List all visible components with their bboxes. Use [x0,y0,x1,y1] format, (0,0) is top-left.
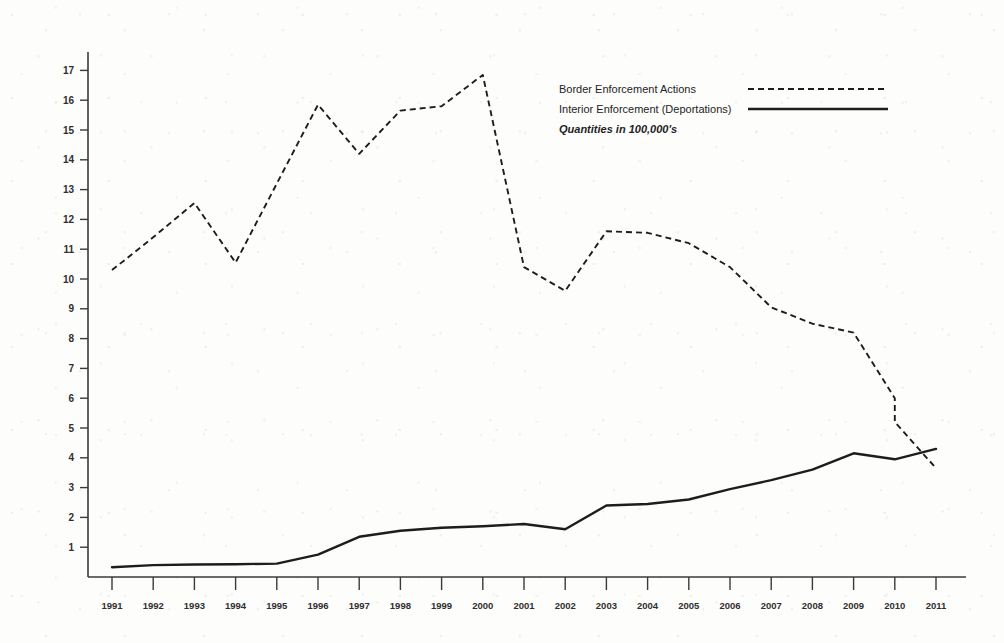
x-tick-label: 1998 [390,600,411,611]
y-tick-label: 2 [68,512,74,523]
legend-units-note: Quantities in 100,000's [559,123,677,135]
x-tick-label: 2000 [472,600,493,611]
y-tick-label: 9 [68,303,74,314]
y-axis-ticks: 1234567891011121314151617 [63,65,88,553]
x-tick-label: 2002 [555,600,576,611]
legend-label-border-enforcement-actions: Border Enforcement Actions [559,83,696,95]
line-chart: 1234567891011121314151617 19911992199319… [0,0,1004,643]
x-tick-label: 1996 [307,600,328,611]
y-tick-label: 10 [63,274,75,285]
chart-series [112,75,936,567]
y-tick-label: 17 [63,65,75,76]
chart-legend: Border Enforcement Actions Interior Enfo… [559,83,888,135]
x-tick-label: 2001 [513,600,535,611]
x-tick-label: 2010 [884,600,905,611]
y-tick-label: 15 [63,125,75,136]
x-tick-label: 2009 [843,600,864,611]
x-tick-label: 1995 [266,600,288,611]
y-tick-label: 7 [68,363,74,374]
x-tick-label: 2007 [761,600,782,611]
x-tick-label: 1991 [101,600,123,611]
chart-canvas: 1234567891011121314151617 19911992199319… [0,0,1004,643]
series-border-enforcement-actions [112,75,936,468]
y-tick-label: 6 [68,393,74,404]
x-tick-label: 1992 [143,600,164,611]
series-interior-enforcement-deportations [112,449,936,567]
y-tick-label: 3 [68,482,74,493]
x-tick-label: 1994 [225,600,247,611]
x-tick-label: 2003 [596,600,617,611]
x-tick-label: 2008 [802,600,823,611]
x-tick-label: 1999 [431,600,452,611]
y-tick-label: 8 [68,333,74,344]
x-tick-label: 2005 [678,600,700,611]
chart-axes [88,52,966,577]
y-tick-label: 14 [63,154,75,165]
x-tick-label: 1993 [184,600,205,611]
y-tick-label: 1 [68,542,74,553]
x-axis-ticks: 1991199219931994199519961997199819992000… [101,577,947,611]
y-tick-label: 4 [68,452,74,463]
legend-label-interior-enforcement-deportations: Interior Enforcement (Deportations) [559,103,731,115]
y-tick-label: 13 [63,184,75,195]
x-tick-label: 1997 [349,600,370,611]
y-tick-label: 5 [68,423,74,434]
y-tick-label: 12 [63,214,75,225]
x-tick-label: 2004 [637,600,659,611]
x-tick-label: 2006 [719,600,740,611]
x-tick-label: 2011 [926,600,947,611]
y-tick-label: 11 [63,244,74,255]
y-tick-label: 16 [63,95,75,106]
